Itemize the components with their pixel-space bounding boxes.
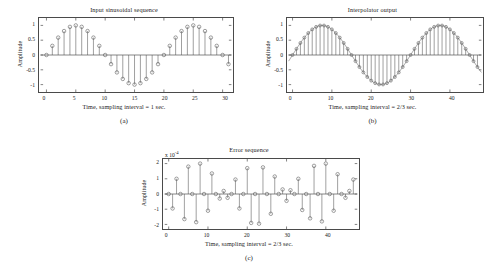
y-tick-label-a: 0	[14, 52, 35, 58]
plot-axes-c	[162, 158, 360, 230]
subfigure-label-c: (c)	[124, 254, 374, 262]
x-tick-label-a: 10	[94, 95, 114, 101]
plot-axes-b	[286, 17, 484, 93]
plot-title-c: Error sequence	[124, 146, 374, 154]
plot-title-b: Interpolator output	[248, 6, 497, 14]
y-tick-label-c: 1	[138, 175, 159, 181]
y-tick-label-c: -1	[138, 206, 159, 212]
x-tick-label-b: 20	[361, 95, 381, 101]
x-tick-label-c: 40	[318, 232, 338, 238]
x-tick-label-a: 20	[155, 95, 175, 101]
x-tick-label-b: 40	[442, 95, 462, 101]
stem-plot-a	[39, 18, 233, 92]
y-tick-label-b: 0.5	[262, 36, 283, 42]
x-tick-label-a: 25	[185, 95, 205, 101]
stem-plot-b	[287, 18, 483, 92]
stem-plot-c	[163, 159, 359, 229]
x-tick-label-b: 10	[320, 95, 340, 101]
x-axis-label-b: Time, sampling interval = 2/3 sec.	[248, 103, 497, 110]
y-tick-label-c: 2	[138, 159, 159, 165]
x-axis-label-c: Time, sampling interval = 2/3 sec.	[124, 240, 374, 247]
subplot-b: Interpolator output Amplitude Time, samp…	[248, 0, 497, 140]
plot-title-a: Input sinusoidal sequence	[0, 6, 248, 14]
exponent-base: x 10	[165, 152, 175, 158]
x-tick-label-a: 0	[34, 95, 54, 101]
x-tick-label-a: 15	[124, 95, 144, 101]
subfigure-label-b: (b)	[248, 117, 497, 125]
x-tick-label-a: 30	[215, 95, 235, 101]
x-tick-label-a: 5	[64, 95, 84, 101]
y-tick-label-c: -2	[138, 222, 159, 228]
subplot-a: Input sinusoidal sequence Amplitude Time…	[0, 0, 248, 140]
y-tick-label-b: 0	[262, 52, 283, 58]
y-tick-label-b: 1	[262, 21, 283, 27]
y-tick-label-a: 0.5	[14, 36, 35, 42]
y-tick-label-a: 1	[14, 21, 35, 27]
y-tick-label-c: 0	[138, 191, 159, 197]
x-tick-label-b: 30	[401, 95, 421, 101]
exponent-power: -4	[175, 150, 179, 155]
x-tick-label-c: 10	[196, 232, 216, 238]
x-tick-label-c: 20	[237, 232, 257, 238]
y-axis-exponent-c: x 10-4	[165, 150, 179, 158]
y-tick-label-b: -0.5	[262, 67, 283, 73]
x-tick-label-c: 30	[277, 232, 297, 238]
x-tick-label-c: 0	[156, 232, 176, 238]
y-tick-label-a: -1	[14, 82, 35, 88]
subfigure-label-a: (a)	[0, 117, 248, 125]
y-tick-label-a: -0.5	[14, 67, 35, 73]
x-axis-label-a: Time, sampling interval = 1 sec.	[0, 103, 248, 110]
plot-axes-a	[38, 17, 234, 93]
y-tick-label-b: -1	[262, 82, 283, 88]
x-tick-label-b: 0	[280, 95, 300, 101]
subplot-c: Error sequence x 10-4 Amplitude Time, sa…	[124, 140, 374, 275]
